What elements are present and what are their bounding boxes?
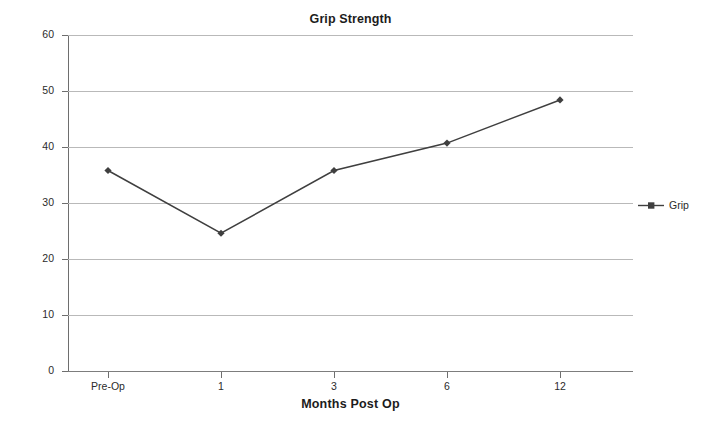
y-axis-label: 60: [0, 29, 54, 40]
y-axis-label: 40: [0, 141, 54, 152]
series-line-grip: [108, 100, 560, 233]
x-axis-tick: [334, 371, 335, 378]
x-axis-label: 6: [444, 380, 450, 392]
gridline: [68, 371, 633, 372]
data-point-marker: [104, 167, 111, 174]
chart-legend: Grip: [638, 199, 689, 211]
x-axis-tick: [108, 371, 109, 378]
y-axis-label: 30: [0, 197, 54, 208]
data-point-marker: [217, 230, 224, 237]
data-point-marker: [556, 96, 563, 103]
plot-area: [68, 35, 633, 371]
x-axis-tick: [221, 371, 222, 378]
y-axis-label: 20: [0, 253, 54, 264]
y-axis-label: 0: [0, 365, 54, 376]
x-axis-label: 1: [218, 380, 224, 392]
series-grip: [68, 35, 633, 371]
data-point-marker: [443, 139, 450, 146]
x-axis-label: 12: [554, 380, 566, 392]
y-axis-label: 10: [0, 309, 54, 320]
legend-marker-icon: [638, 200, 664, 211]
data-point-marker: [330, 167, 337, 174]
x-axis-label: 3: [331, 380, 337, 392]
chart-container: Grip Strength Function Months Post Op 01…: [0, 0, 705, 424]
chart-title: Grip Strength: [68, 12, 633, 26]
legend-label-grip: Grip: [669, 199, 689, 211]
x-axis-title: Months Post Op: [68, 397, 633, 411]
x-axis-tick: [560, 371, 561, 378]
y-axis-label: 50: [0, 85, 54, 96]
x-axis-tick: [447, 371, 448, 378]
x-axis-label: Pre-Op: [91, 380, 125, 392]
